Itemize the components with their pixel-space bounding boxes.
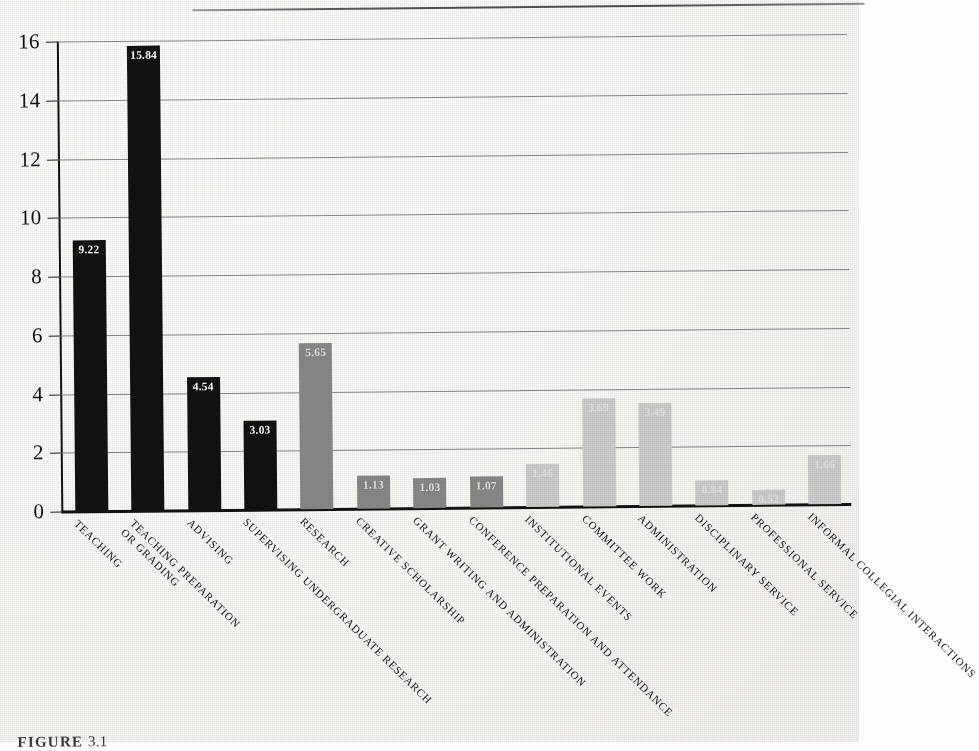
x-axis-category-label-line: TEACHING [72,517,125,570]
bar-slot: 0.84 [691,35,729,505]
bar-value-label: 3.03 [243,423,276,435]
bar-slot: 1.07 [466,37,504,507]
y-axis-tick-label: 0 [33,499,44,524]
x-axis-category-label: CREATIVE SCHOLARSHIP [353,515,468,628]
bar[interactable]: 9.22 [72,240,108,511]
bar[interactable]: 0.52 [752,489,785,505]
bar-slot: 9.22 [71,41,109,511]
x-axis-category-label: RESEARCH [297,515,352,569]
x-axis-category-label: INSTITUTIONAL EVENTS [523,513,636,624]
x-axis-category-label: PROFESSIONAL SERVICE [748,511,861,622]
bar-slot: 1.66 [804,34,842,504]
bar-slot: 1.13 [353,38,391,508]
y-axis-tick-label: 2 [33,440,44,465]
bar[interactable]: 3.03 [243,420,277,509]
x-axis-category-label-line: DISCIPLINARY SERVICE [693,511,801,618]
y-axis-tick-label: 4 [32,382,43,407]
y-axis-tick-label: 14 [19,88,41,113]
x-axis-category-label: SUPERVISING UNDERGRADUATE RESEARCH [240,516,434,707]
y-axis-tick [49,335,60,336]
x-axis-category-label: ADVISING [184,516,236,567]
bar-value-label: 0.52 [752,492,785,504]
x-axis-category-label: DISCIPLINARY SERVICE [692,511,801,618]
bar[interactable]: 15.84 [127,45,164,511]
y-axis-tick-label: 6 [32,323,43,348]
bar[interactable]: 1.03 [413,478,446,509]
bar[interactable]: 1.13 [357,475,390,509]
figure-caption-number: 3.1 [88,733,108,749]
page-top-rule [193,3,865,11]
bar-value-label: 5.65 [299,346,332,358]
figure-caption: FIGURE 3.1 [17,733,107,751]
bar-value-label: 0.84 [696,483,729,495]
x-axis-category-label-line: ADVISING [185,516,236,567]
bar-value-label: 4.54 [187,380,220,392]
x-axis-category-label-line: CONFERENCE PREPARATION AND ATTENDANCE [467,514,676,719]
bar[interactable]: 3.69 [582,398,616,507]
bar-slot: 3.03 [240,39,278,509]
x-axis-category-label-line: CREATIVE SCHOLARSHIP [354,515,468,627]
bar-value-label: 1.13 [357,478,390,490]
bar[interactable]: 3.49 [638,403,672,506]
x-axis-category-label-line: TEACHING PREPARATION [128,517,243,630]
bar-slot: 3.49 [635,36,673,506]
x-axis-category-label: TEACHING [71,517,125,570]
bar-value-label: 1.07 [470,479,503,491]
y-axis-tick [47,159,58,160]
figure-skew-wrapper: 0246810121416 9.2215.844.543.035.651.131… [0,0,863,746]
x-axis-category-label-line: SUPERVISING UNDERGRADUATE RESEARCH [241,516,435,706]
x-axis-category-label-line: PROFESSIONAL SERVICE [749,511,861,621]
bar-slot: 5.65 [296,39,334,509]
bar[interactable]: 5.65 [299,343,334,509]
x-axis-category-label-line: RESEARCH [298,515,352,569]
x-axis-category-labels: TEACHINGTEACHING PREPARATIONOR GRADINGAD… [63,510,865,728]
y-axis-tick-label: 10 [20,205,42,230]
y-axis-tick-label: 8 [31,264,42,289]
bar[interactable]: 1.66 [808,455,841,504]
y-axis-tick [49,394,60,395]
bar-value-label: 15.84 [127,48,160,60]
bar-series: 9.2215.844.543.035.651.131.031.071.463.6… [59,34,851,512]
bar-slot: 4.54 [183,40,221,510]
y-axis-tick [46,100,57,101]
bar-slot: 1.03 [409,38,447,508]
x-axis-category-label-line: INSTITUTIONAL EVENTS [523,513,635,623]
bar[interactable]: 1.46 [526,464,559,507]
bar-value-label: 1.46 [526,467,559,479]
y-axis-tick-label: 12 [19,147,41,172]
bar-slot: 3.69 [578,36,616,506]
bar-value-label: 3.69 [582,401,615,413]
y-axis-tick [50,512,61,513]
bar[interactable]: 0.84 [695,480,728,505]
bar-value-label: 1.03 [413,481,446,493]
bar-value-label: 9.22 [72,243,105,255]
bar-value-label: 1.66 [808,458,841,470]
x-axis-category-label: TEACHING PREPARATIONOR GRADING [119,517,244,640]
y-axis-tick [46,42,57,43]
bar-value-label: 3.49 [638,406,671,418]
y-axis-tick [50,453,61,454]
y-axis-tick [48,218,59,219]
y-axis-tick [48,277,59,278]
bar-chart-plot-area: 0246810121416 9.2215.844.543.035.651.131… [57,34,851,512]
bar[interactable]: 4.54 [187,377,221,511]
bar-slot: 1.46 [522,37,560,507]
bar-slot: 15.84 [127,41,165,511]
bar-slot: 0.52 [748,35,786,505]
bar[interactable]: 1.07 [470,476,503,508]
figure-caption-label: FIGURE [17,733,83,750]
x-axis-category-label: CONFERENCE PREPARATION AND ATTENDANCE [466,514,675,720]
y-axis-tick-label: 16 [18,29,40,54]
